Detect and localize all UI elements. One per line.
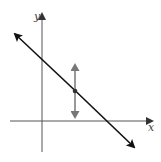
sloped-line	[15, 34, 75, 91]
y-axis-label: y	[33, 10, 41, 23]
graph: y x	[0, 0, 161, 162]
x-axis-label: x	[148, 121, 155, 134]
sloped-line-lower	[75, 91, 134, 148]
point-marker	[73, 89, 78, 94]
